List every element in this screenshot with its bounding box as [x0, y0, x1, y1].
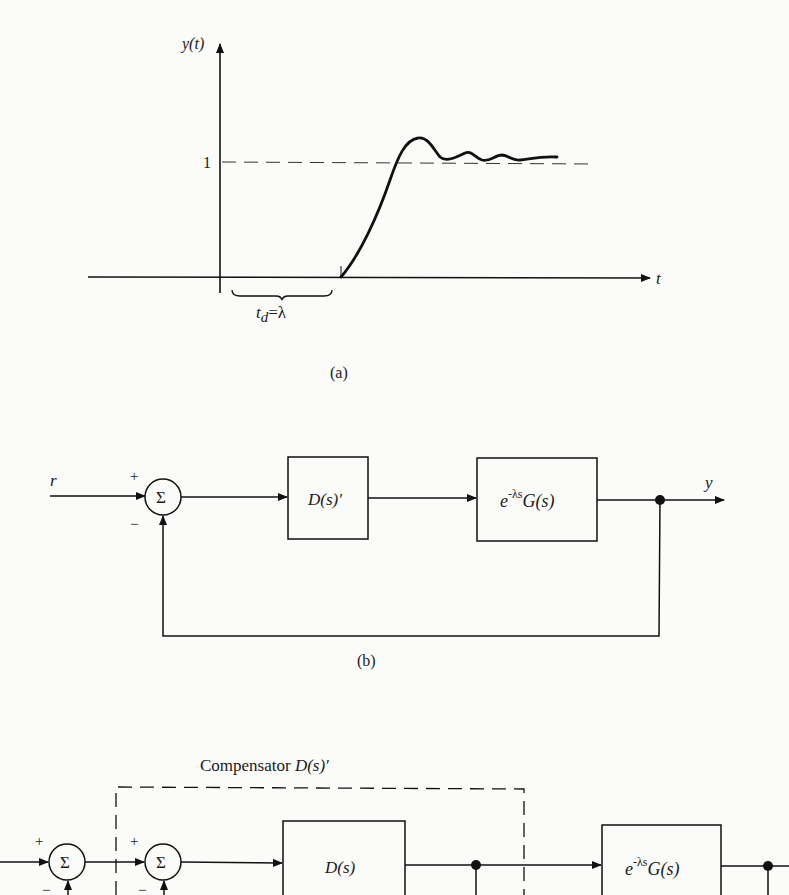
- inner-error-line: [181, 862, 282, 863]
- output-label-y: y: [703, 473, 713, 492]
- summing-minus-sign: −: [130, 516, 138, 532]
- summing-symbol: Σ: [156, 488, 166, 507]
- summing-2-minus-sign: −: [138, 882, 146, 895]
- summing-1-minus-sign: −: [42, 882, 50, 895]
- caption-b: (b): [357, 652, 376, 670]
- summing-symbol-2: Σ: [156, 853, 166, 872]
- delay-brace: [232, 290, 332, 300]
- input-label-r: r: [50, 471, 57, 490]
- summing-plus-sign: +: [130, 468, 138, 484]
- compensator-boundary: [116, 787, 524, 895]
- feedback-path: [163, 500, 660, 636]
- reference-dashed-line: [222, 162, 596, 164]
- summing-2-plus-sign: +: [130, 833, 138, 849]
- plant-block-label: e-λsG(s): [500, 487, 554, 512]
- controller-block-c-label: D(s): [324, 858, 356, 877]
- caption-a: (a): [330, 364, 348, 382]
- controller-block-label: D(s)′: [307, 490, 342, 509]
- plant-block-c-label: e-λsG(s): [625, 855, 679, 880]
- delay-label: td=λ: [256, 303, 287, 325]
- reference-level-label: 1: [203, 154, 211, 171]
- figure-a-step-response: y(t) t 1 td=λ (a): [88, 35, 662, 382]
- x-axis: [88, 277, 650, 278]
- figure-b-block-diagram: r Σ + − D(s)′ e-λsG(s) y (b): [50, 457, 724, 670]
- response-curve: [341, 138, 557, 277]
- summing-1-plus-sign: +: [35, 833, 43, 849]
- figure-c-smith-predictor: Compensator D(s)′ Σ + − Σ + − D(s) e-λsG…: [0, 756, 789, 895]
- summing-symbol-1: Σ: [60, 853, 70, 872]
- y-axis-label: y(t): [180, 35, 204, 53]
- x-axis-label: t: [656, 269, 662, 288]
- compensator-title: Compensator D(s)′: [200, 756, 329, 775]
